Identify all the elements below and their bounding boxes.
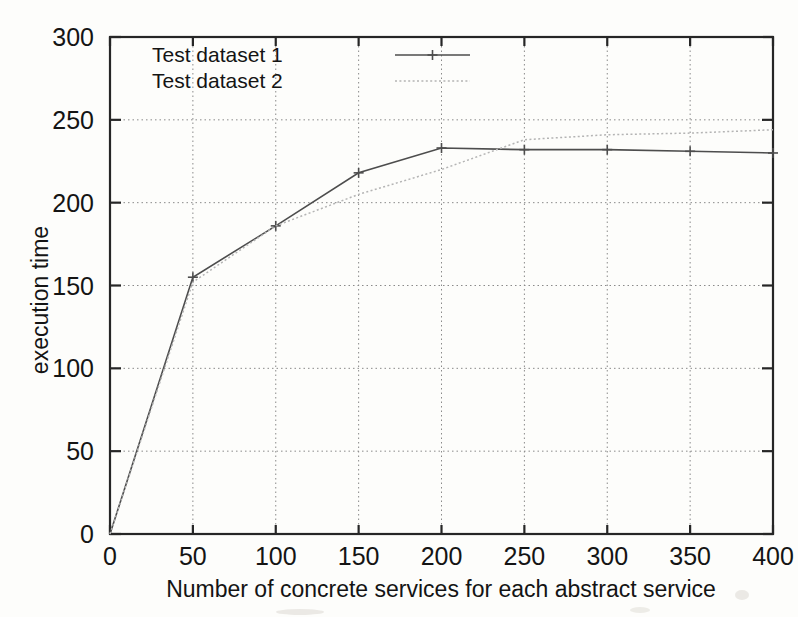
- x-tick-label: 50: [179, 542, 207, 570]
- x-tick-label: 350: [669, 542, 711, 570]
- chart-figure: 050100150200250300350400 050100150200250…: [0, 0, 798, 617]
- x-tick-label: 400: [752, 542, 794, 570]
- line-chart: 050100150200250300350400 050100150200250…: [0, 0, 798, 617]
- y-tick-label: 150: [52, 272, 94, 300]
- y-tick-label: 300: [52, 23, 94, 51]
- x-tick-label: 200: [421, 542, 463, 570]
- y-tick-label: 100: [52, 354, 94, 382]
- y-tick-label: 200: [52, 189, 94, 217]
- y-tick-label: 250: [52, 106, 94, 134]
- figure-background: [0, 0, 798, 617]
- legend-label-1: Test dataset 1: [152, 43, 283, 66]
- x-tick-label: 250: [504, 542, 546, 570]
- x-axis-title: Number of concrete services for each abs…: [166, 576, 716, 602]
- y-tick-label: 0: [80, 520, 94, 548]
- x-tick-label: 0: [103, 542, 117, 570]
- x-tick-labels: 050100150200250300350400: [103, 542, 794, 570]
- x-tick-label: 300: [586, 542, 628, 570]
- legend-label-2: Test dataset 2: [152, 69, 283, 92]
- y-tick-label: 50: [66, 437, 94, 465]
- x-tick-label: 150: [338, 542, 380, 570]
- y-axis-title: execution time: [27, 226, 53, 374]
- x-tick-label: 100: [255, 542, 297, 570]
